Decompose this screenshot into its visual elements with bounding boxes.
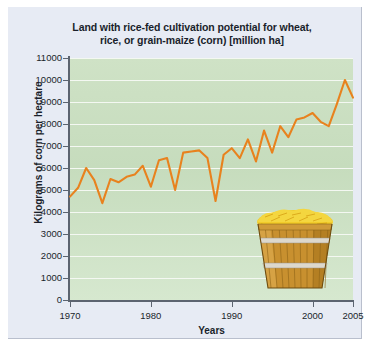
x-axis-tick <box>313 301 314 307</box>
x-axis-tick <box>70 301 71 307</box>
y-axis-tick <box>63 80 69 81</box>
chart-title-line-2: rice, or grain-maize (corn) [million ha] <box>42 34 342 47</box>
y-axis-tick <box>63 146 69 147</box>
x-axis-tick-label: 1980 <box>126 310 176 321</box>
chart-title-line-1: Land with rice-fed cultivation potential… <box>42 21 342 34</box>
barrel-band-lower <box>263 263 327 268</box>
y-axis-tick <box>63 278 69 279</box>
y-axis-tick <box>63 168 69 169</box>
y-axis-tick <box>63 102 69 103</box>
y-axis-tick <box>63 300 69 301</box>
x-axis-tick <box>151 301 152 307</box>
barrel-body <box>258 224 332 288</box>
chart-panel: Land with rice-fed cultivation potential… <box>8 7 362 339</box>
x-axis-title: Years <box>70 325 353 336</box>
y-axis-tick <box>63 124 69 125</box>
y-axis-tick <box>63 190 69 191</box>
y-axis-tick-label: 1000 <box>18 273 62 282</box>
x-axis-tick <box>353 301 354 307</box>
y-axis-tick <box>63 256 69 257</box>
x-axis-tick <box>232 301 233 307</box>
y-axis-tick <box>63 58 69 59</box>
y-axis-title: Kilograms of corn per hectare <box>33 53 44 253</box>
x-axis-tick-label: 1970 <box>45 310 95 321</box>
barrel-rim <box>258 224 332 230</box>
x-axis-tick-label: 1990 <box>207 310 257 321</box>
x-axis-line <box>68 300 354 302</box>
figure: Land with rice-fed cultivation potential… <box>0 0 370 346</box>
barrel-band-upper <box>260 238 330 243</box>
plot-area <box>70 58 353 300</box>
y-axis-tick <box>63 212 69 213</box>
y-axis-tick-label: 0 <box>18 295 62 304</box>
chart-title: Land with rice-fed cultivation potential… <box>42 21 342 47</box>
y-axis-tick <box>63 234 69 235</box>
barrel-of-corn-illustration <box>251 205 339 293</box>
x-axis-tick-label: 2005 <box>328 310 370 321</box>
